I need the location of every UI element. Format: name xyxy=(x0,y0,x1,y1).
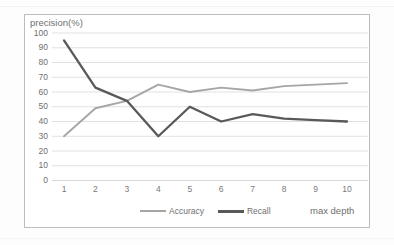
legend-line-icon-recall xyxy=(218,210,244,213)
scan-artifact-bottom xyxy=(0,238,394,239)
legend-line-icon-accuracy xyxy=(140,210,166,212)
legend-label-accuracy: Accuracy xyxy=(169,206,204,216)
legend-label-recall: Recall xyxy=(247,206,271,216)
legend-item-accuracy: Accuracy xyxy=(140,206,204,216)
legend-item-recall: Recall xyxy=(218,206,271,216)
screenshot-canvas: precision(%) max depth 10090807060504030… xyxy=(0,0,394,245)
scan-artifact-top xyxy=(0,6,394,7)
chart-legend: Accuracy Recall xyxy=(140,206,271,216)
